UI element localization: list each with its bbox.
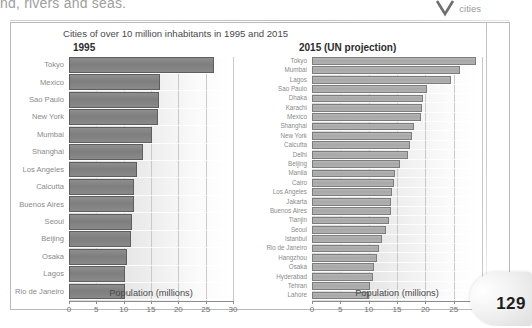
bar-row [312, 76, 482, 84]
category-label: Lahore [287, 292, 307, 298]
bar-row [69, 214, 233, 230]
axis-tick [206, 301, 207, 304]
category-label: Los Angeles [273, 189, 307, 195]
bar [312, 188, 392, 196]
bar [69, 92, 159, 108]
bar-row [312, 151, 482, 159]
category-label: Tokyo [44, 61, 64, 69]
category-label: Seoul [291, 227, 307, 233]
plot-area-2015 [312, 57, 482, 301]
category-label: Hangzhou [278, 255, 307, 261]
axis-tick-label: 30 [229, 305, 238, 314]
bar-row [312, 273, 482, 281]
axis-tick [151, 301, 152, 304]
category-label: Buenos Aires [19, 201, 64, 209]
bar-row [312, 207, 482, 215]
category-label: Shanghai [280, 123, 307, 129]
category-label: New York [32, 113, 64, 121]
bar [312, 179, 394, 187]
section-tab-label: cities [459, 3, 481, 14]
bar-row [69, 74, 233, 90]
axis-tick-label: 5 [94, 305, 98, 314]
axis-tick-label: 25 [449, 305, 458, 314]
x-axis-title-1995: Population (millions) [69, 288, 233, 298]
bar [312, 263, 374, 271]
bar [69, 266, 125, 282]
page-header-strip: nd, rivers and seas. cities [0, 0, 528, 21]
category-label: Lagos [43, 270, 64, 278]
bar-row [312, 226, 482, 234]
axis-tick [340, 301, 341, 304]
bar [312, 245, 379, 253]
category-label: Shanghai [32, 148, 64, 156]
bar-row [312, 179, 482, 187]
bar [69, 196, 134, 212]
bar-row [69, 162, 233, 178]
chevron-down-icon [435, 0, 455, 17]
bar [312, 170, 395, 178]
category-label: Tokyo [291, 58, 307, 64]
bar [312, 123, 414, 131]
bar [312, 160, 400, 168]
value-axis-1995: 051015202530 [69, 301, 233, 302]
section-tab-marker: cities [435, 0, 481, 17]
bar [69, 179, 134, 195]
chart-title-1995: 1995 [73, 42, 95, 53]
category-label: Rio de Janeiro [266, 245, 307, 251]
bar [312, 132, 412, 140]
bar-row [312, 254, 482, 262]
axis-tick [69, 301, 70, 304]
category-label: Sao Paulo [29, 96, 64, 104]
bar-row [312, 245, 482, 253]
plot-area-1995 [69, 57, 233, 301]
category-label: Calcutta [36, 183, 64, 191]
category-label: Mumbai [285, 67, 307, 73]
axis-tick [233, 301, 234, 304]
category-label: Rio de Janeiro [15, 288, 64, 296]
category-label: Istanbul [285, 236, 307, 242]
category-label: Dhaka [289, 95, 307, 101]
category-axis-1995: TokyoMexicoSao PauloNew YorkMumbaiShangh… [11, 57, 67, 301]
chart-title-2015: 2015 (UN projection) [299, 42, 396, 53]
bar [312, 66, 460, 74]
gridline [482, 57, 483, 301]
bar [312, 226, 386, 234]
category-label: Buenos Aires [270, 208, 307, 214]
bar [312, 254, 377, 262]
bar-row [69, 109, 233, 125]
bar-row [312, 85, 482, 93]
bar [312, 76, 451, 84]
category-label: Mexico [40, 79, 64, 87]
category-label: Beijing [41, 235, 64, 243]
axis-tick-label: 5 [338, 305, 342, 314]
bar [312, 113, 421, 121]
category-label: Beijing [288, 161, 307, 167]
bar-row [69, 249, 233, 265]
axis-tick [178, 301, 179, 304]
category-label: Osaka [289, 264, 307, 270]
value-axis-2015: 051015202530 [312, 301, 482, 302]
bar-row [312, 160, 482, 168]
axis-tick-label: 25 [201, 305, 210, 314]
axis-tick [369, 301, 370, 304]
figure-frame: Cities of over 10 million inhabitants in… [10, 22, 510, 310]
header-rule [10, 20, 510, 21]
bar [69, 162, 137, 178]
bar [312, 104, 422, 112]
bar-row [69, 127, 233, 143]
bar [69, 144, 143, 160]
category-label: Tianjin [289, 217, 307, 223]
bar-row [312, 95, 482, 103]
bar [312, 141, 410, 149]
bar [312, 273, 373, 281]
bar [312, 207, 391, 215]
bar [312, 217, 389, 225]
category-label: Osaka [42, 253, 64, 261]
bar [312, 85, 427, 93]
bar-row [312, 57, 482, 65]
bar [69, 74, 160, 90]
axis-tick-label: 20 [421, 305, 430, 314]
bleed-text: nd, rivers and seas. [0, 0, 126, 11]
chart-panel-1995: 1995 TokyoMexicoSao PauloNew YorkMumbaiS… [11, 23, 251, 311]
page-number: 129 [496, 294, 526, 314]
